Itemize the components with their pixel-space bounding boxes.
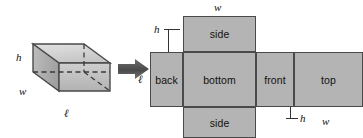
leader-line-h-upper-left-vertical (168, 29, 169, 53)
box-length-label: ℓ (64, 108, 69, 119)
box-height-label: h (16, 52, 22, 63)
net-panel-side-bottom: side (183, 107, 256, 138)
net-panel-front: front (256, 52, 294, 107)
net-panel-top: top (294, 52, 363, 107)
leader-line-h-upper-left-horizontal (164, 29, 180, 30)
box-width-label: w (19, 86, 26, 97)
figure-canvas: h w ℓ back front (0, 0, 363, 138)
net-panel-back: back (150, 52, 183, 107)
net-panel-top-label: top (321, 74, 336, 86)
net-panel-side-top-label: side (210, 28, 230, 40)
net-dimension-label-h-lower-right: h (300, 113, 306, 124)
net-panel-side-top: side (183, 16, 256, 52)
arrow-icon (118, 58, 150, 80)
net-panel-side-bottom-label: side (210, 117, 230, 129)
box-front-face (59, 63, 110, 91)
net-panel-back-label: back (155, 74, 178, 86)
arrow-shape (118, 59, 149, 79)
net-panel-front-label: front (264, 74, 286, 86)
net-panel-bottom-label: bottom (203, 74, 236, 86)
net-dimension-label-w-bottom: w (322, 116, 329, 127)
leader-line-h-lower-right-horizontal (286, 118, 298, 119)
net-dimension-label-l-left: ℓ (138, 74, 143, 85)
net-dimension-label-h-upper-left: h (154, 24, 160, 35)
box-net-illustration: back front top side side bottom w h ℓ h … (150, 0, 363, 138)
net-dimension-label-w-top: w (214, 2, 221, 13)
net-panel-bottom: bottom (183, 52, 256, 107)
transform-arrow (118, 58, 150, 80)
